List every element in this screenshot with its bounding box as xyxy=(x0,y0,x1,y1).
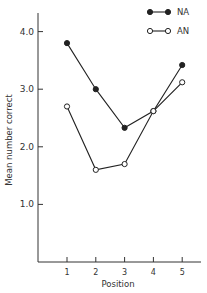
series xyxy=(64,41,184,173)
data-point-na xyxy=(122,125,127,130)
x-axis-label: Position xyxy=(101,279,134,289)
data-point-an xyxy=(122,161,127,166)
x-tick-label: 1 xyxy=(64,268,69,277)
data-point-an xyxy=(151,108,156,113)
legend-label-na: NA xyxy=(177,7,189,17)
y-tick-label: 3.0 xyxy=(20,84,35,94)
data-point-an xyxy=(180,80,185,85)
legend-label-an: AN xyxy=(177,26,189,36)
data-point-na xyxy=(64,41,69,46)
line-chart: 1.02.03.04.012345PositionMean number cor… xyxy=(0,0,207,293)
y-tick-label: 4.0 xyxy=(20,27,35,37)
x-tick-label: 5 xyxy=(180,268,185,277)
series-line-na xyxy=(67,43,182,128)
axes: 1.02.03.04.012345PositionMean number cor… xyxy=(4,13,201,289)
legend-marker xyxy=(147,9,152,14)
y-tick-label: 1.0 xyxy=(20,199,35,209)
data-point-na xyxy=(180,62,185,67)
data-point-na xyxy=(93,87,98,92)
legend: NAAN xyxy=(147,7,189,36)
legend-marker xyxy=(165,9,170,14)
y-tick-label: 2.0 xyxy=(20,142,35,152)
x-tick-label: 4 xyxy=(151,268,156,277)
data-point-an xyxy=(93,167,98,172)
y-axis-label: Mean number correct xyxy=(4,94,14,186)
data-point-an xyxy=(64,104,69,109)
x-tick-label: 2 xyxy=(93,268,98,277)
x-tick-label: 3 xyxy=(122,268,127,277)
legend-marker xyxy=(165,28,170,33)
legend-marker xyxy=(147,28,152,33)
